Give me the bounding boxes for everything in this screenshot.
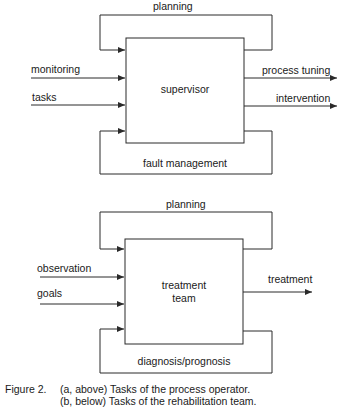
process-tuning-label: process tuning [262, 65, 330, 76]
intervention-label: intervention [276, 93, 330, 104]
caption-line-1: (a, above) Tasks of the process operator… [60, 384, 250, 395]
caption-line-2: (b, below) Tasks of the rehabilitation t… [60, 396, 257, 407]
figure-number: Figure 2. [5, 384, 46, 395]
tasks-label: tasks [32, 92, 57, 103]
planning-label-b: planning [166, 199, 206, 210]
treatment-team-label-2: team [125, 293, 243, 304]
supervisor-label: supervisor [126, 84, 244, 95]
observation-label: observation [37, 263, 91, 274]
planning-label-a: planning [153, 1, 193, 12]
diagnosis-prognosis-label: diagnosis/prognosis [125, 356, 243, 367]
goals-label: goals [37, 288, 62, 299]
monitoring-label: monitoring [31, 64, 80, 75]
fault-management-label: fault management [126, 158, 244, 169]
treatment-team-label-1: treatment [125, 280, 243, 291]
treatment-label: treatment [268, 274, 312, 285]
planning-loop-b [100, 212, 272, 249]
